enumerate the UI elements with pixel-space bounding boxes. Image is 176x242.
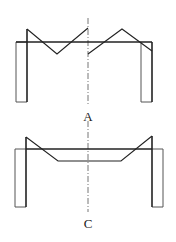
figure-a: A: [16, 18, 152, 124]
right-post-a: [141, 42, 152, 102]
diagram-canvas: A C: [0, 0, 176, 242]
left-post-a: [16, 42, 27, 102]
label-c: C: [84, 216, 93, 231]
right-post-c: [152, 149, 163, 207]
zigzag-left-a: [27, 28, 88, 54]
left-post-c: [15, 149, 26, 207]
figure-c: C: [15, 121, 163, 231]
